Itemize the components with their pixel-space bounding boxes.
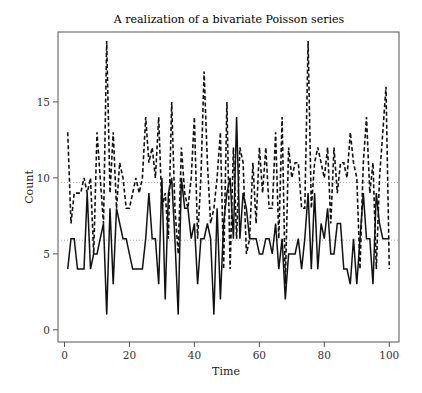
y-axis: 051015 xyxy=(37,96,58,336)
x-axis: 020406080100 xyxy=(61,342,399,361)
x-axis-label: Time xyxy=(212,365,240,378)
x-tick-label: 40 xyxy=(188,349,201,361)
series-layer xyxy=(68,41,390,315)
chart-title: A realization of a bivariate Poisson ser… xyxy=(113,13,345,26)
x-tick-label: 0 xyxy=(61,349,68,361)
x-tick-label: 60 xyxy=(253,349,266,361)
y-tick-label: 15 xyxy=(37,96,50,108)
x-tick-label: 100 xyxy=(379,349,399,361)
x-tick-label: 20 xyxy=(123,349,136,361)
y-tick-label: 0 xyxy=(43,324,50,336)
y-tick-label: 5 xyxy=(43,248,50,260)
x-tick-label: 80 xyxy=(318,349,331,361)
series-dashed-line xyxy=(68,41,390,284)
chart: A realization of a bivariate Poisson ser… xyxy=(0,0,422,393)
y-tick-label: 10 xyxy=(37,172,50,184)
y-axis-label: Count xyxy=(23,170,36,204)
